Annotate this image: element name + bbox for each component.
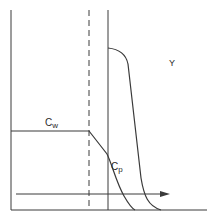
arrow-head-icon: [160, 191, 170, 197]
concentration-profile-diagram: Cw Cp Y: [0, 0, 212, 216]
y-label: Y: [169, 58, 175, 68]
diagram-canvas: Cw Cp Y: [0, 0, 212, 216]
cp-label: Cp: [111, 161, 123, 174]
y-curve: [108, 48, 161, 210]
cw-label: Cw: [45, 117, 58, 130]
